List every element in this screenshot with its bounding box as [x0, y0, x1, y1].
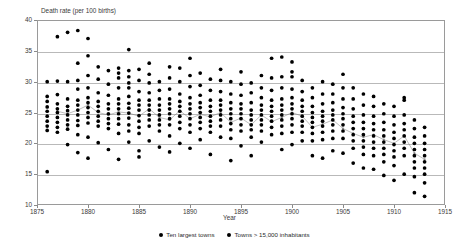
x-tick-label: 1910	[379, 208, 409, 215]
gridline	[38, 114, 444, 115]
plot-area	[37, 20, 445, 205]
y-tick-label: 20	[10, 139, 32, 146]
y-tick-mark	[34, 20, 37, 21]
y-tick-label: 35	[10, 47, 32, 54]
x-tick-mark	[190, 205, 191, 208]
y-tick-label: 25	[10, 109, 32, 116]
legend-marker-icon	[159, 233, 163, 237]
x-tick-mark	[445, 205, 446, 208]
scatter-chart: Death rate (per 100 births) Year 1015202…	[0, 0, 469, 251]
y-tick-mark	[34, 174, 37, 175]
x-tick-label: 1885	[124, 208, 154, 215]
legend-label: Ten largest towns	[166, 231, 214, 238]
gridline	[38, 52, 444, 53]
gridline	[38, 175, 444, 176]
x-tick-label: 1905	[328, 208, 358, 215]
x-tick-mark	[37, 205, 38, 208]
x-tick-mark	[394, 205, 395, 208]
y-tick-label: 15	[10, 170, 32, 177]
y-tick-label: 30	[10, 78, 32, 85]
legend-entry-0[interactable]: Ten largest towns	[159, 231, 214, 238]
y-tick-label: 10	[10, 201, 32, 208]
chart-legend: Ten largest townsTowns > 15,000 inhabita…	[0, 231, 469, 238]
x-tick-label: 1915	[430, 208, 460, 215]
y-tick-mark	[34, 143, 37, 144]
x-tick-label: 1890	[175, 208, 205, 215]
x-tick-mark	[343, 205, 344, 208]
x-tick-label: 1880	[73, 208, 103, 215]
x-tick-label: 1875	[22, 208, 52, 215]
gridline	[38, 83, 444, 84]
x-tick-mark	[241, 205, 242, 208]
y-tick-label: 40	[10, 16, 32, 23]
legend-marker-icon	[227, 233, 231, 237]
legend-entry-1[interactable]: Towns > 15,000 inhabitants	[227, 231, 309, 238]
gridline	[38, 144, 444, 145]
x-tick-mark	[292, 205, 293, 208]
y-tick-mark	[34, 113, 37, 114]
x-tick-mark	[88, 205, 89, 208]
x-tick-label: 1895	[226, 208, 256, 215]
x-axis-title: Year	[223, 214, 236, 221]
x-tick-mark	[139, 205, 140, 208]
legend-label: Towns > 15,000 inhabitants	[234, 231, 309, 238]
y-tick-mark	[34, 51, 37, 52]
y-axis-title: Death rate (per 100 births)	[41, 7, 116, 14]
x-tick-label: 1900	[277, 208, 307, 215]
y-tick-mark	[34, 82, 37, 83]
